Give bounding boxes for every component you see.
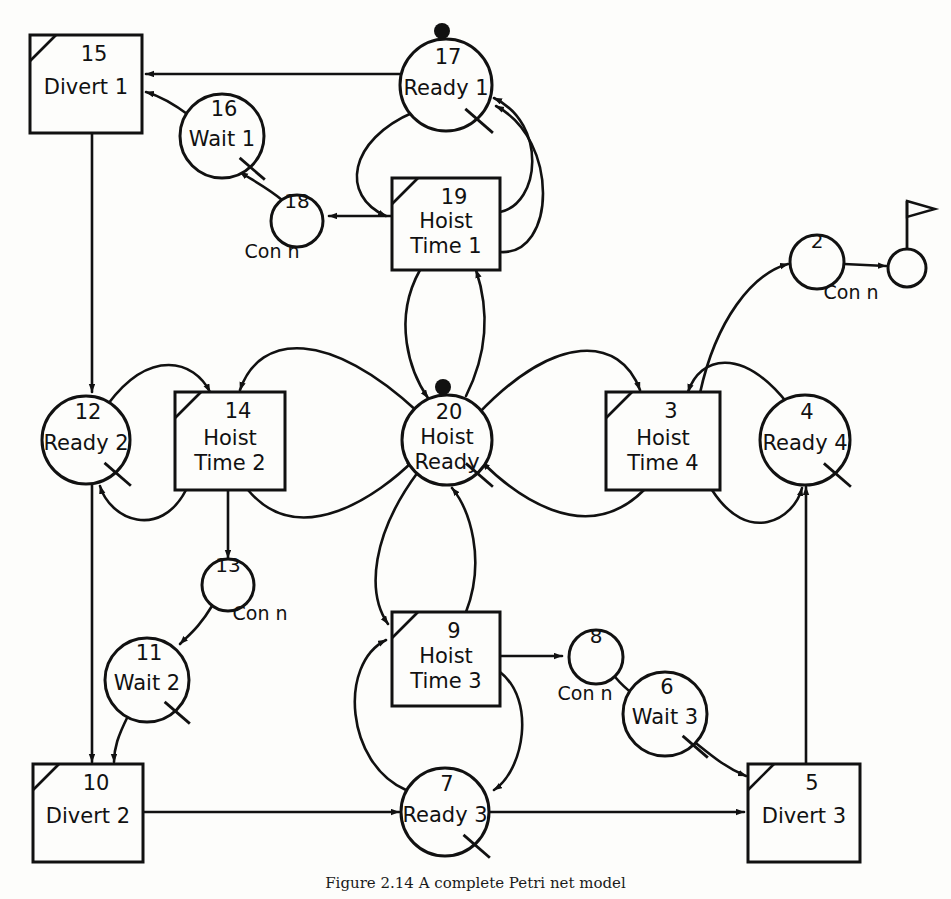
arc-hoisttime4-to-conn2 [700,264,788,393]
arc-hoistready-to-hoisttime1 [466,270,485,396]
node-number: 9 [447,619,460,643]
node-number: 20 [436,400,463,424]
node-number: 2 [811,229,824,253]
node-n10[interactable]: 10Divert 2 [33,764,143,862]
node-number: 15 [81,42,108,66]
node-number: 5 [805,771,818,795]
node-label-line1: Hoist [636,426,690,450]
token-dot-icon [435,379,451,395]
arc-conn2-to-flag [844,264,886,266]
node-label: Wait 1 [189,127,255,151]
node-number: 12 [75,400,102,424]
node-n4[interactable]: 4Ready 4 [760,395,851,487]
node-label-line2: Time 3 [409,669,481,693]
token-dot-icon [434,23,450,39]
terminal-circle [888,249,926,287]
node-number: 4 [800,400,813,424]
node-label: Wait 3 [632,705,698,729]
node-number: 7 [440,772,453,796]
node-n14[interactable]: 14HoistTime 2 [175,392,285,490]
node-number: 11 [136,641,163,665]
node-number: 19 [441,185,468,209]
arc-wait1-to-divert1 [146,92,190,116]
node-label-line2: Time 4 [626,451,698,475]
conn-sublabel: Con n [244,240,299,262]
node-label-line1: Hoist [420,425,474,449]
arc-hoistready-to-hoisttime3 [376,472,418,624]
node-label-line2: Ready [414,450,479,474]
node-label-line2: Time 1 [409,234,481,258]
arc-hoisttime2-to-ready2 [100,486,186,520]
node-label-line1: Hoist [419,209,473,233]
node-label: Divert 1 [44,75,128,99]
node-n7[interactable]: 7Ready 3 [401,768,490,858]
node-n11[interactable]: 11Wait 2 [105,638,190,724]
node-label-line1: Hoist [203,426,257,450]
conn-sublabel: Con n [232,602,287,624]
figure-caption: Figure 2.14 A complete Petri net model [0,874,951,892]
node-label: Divert 3 [762,804,846,828]
node-label: Ready 1 [403,76,488,100]
node-label-line2: Time 2 [193,451,265,475]
node-number: 18 [284,189,309,213]
figure-canvas: 15Divert 116Wait 117Ready 11819HoistTime… [0,0,951,899]
node-number: 8 [590,624,603,648]
arc-hoisttime1-to-hoistready [405,270,428,398]
node-n20[interactable]: 20HoistReady [402,379,493,487]
node-label: Ready 3 [402,803,487,827]
node-label: Wait 2 [114,671,180,695]
arc-hoisttime3-to-hoistready [452,488,475,612]
arc-hoisttime4-to-ready4 [712,488,802,523]
node-number: 17 [435,45,462,69]
node-n12[interactable]: 12Ready 2 [42,396,131,486]
petri-net-diagram: 15Divert 116Wait 117Ready 11819HoistTime… [0,0,951,899]
node-n8[interactable]: 8 [569,624,623,684]
node-number: 13 [215,553,240,577]
arc-hoisttime1-loop-ready1 [496,106,543,252]
node-label: Ready 4 [762,431,847,455]
node-n9[interactable]: 9HoistTime 3 [392,612,500,706]
node-n16[interactable]: 16Wait 1 [180,94,265,180]
node-number: 10 [83,771,110,795]
node-number: 14 [225,399,252,423]
arc-conn13-to-wait2 [180,606,212,644]
node-number: 3 [664,399,677,423]
arc-wait2-to-divert2 [114,716,128,762]
flag-icon [907,201,935,217]
node-n19[interactable]: 19HoistTime 1 [392,178,500,270]
node-label: Ready 2 [43,431,128,455]
node-n15[interactable]: 15Divert 1 [30,35,142,133]
node-n3[interactable]: 3HoistTime 4 [606,392,720,490]
arc-wait3-to-divert3 [692,740,746,776]
node-number: 6 [660,675,673,699]
node-nflag[interactable] [888,201,935,287]
node-n6[interactable]: 6Wait 3 [623,672,708,758]
node-label: Divert 2 [46,804,130,828]
node-n17[interactable]: 17Ready 1 [400,23,493,133]
conn-sublabel: Con n [557,682,612,704]
node-number: 16 [211,97,238,121]
node-layer: 15Divert 116Wait 117Ready 11819HoistTime… [30,23,935,862]
conn-sublabel: Con n [823,281,878,303]
node-n5[interactable]: 5Divert 3 [748,764,860,862]
node-label-line1: Hoist [419,644,473,668]
